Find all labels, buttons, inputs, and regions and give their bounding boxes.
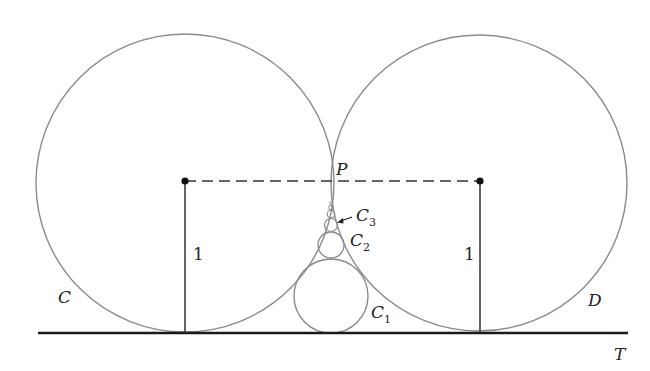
- label-c1-sub: 1: [384, 313, 391, 326]
- tangent-circles-diagram: P C D T 1 1 C 3 C 2 C 1: [0, 0, 650, 371]
- center-dot-left: [181, 177, 188, 184]
- label-c3: C: [356, 205, 369, 225]
- label-radius-left: 1: [193, 244, 204, 264]
- label-c: C: [58, 287, 71, 307]
- circle-c3: [325, 219, 338, 232]
- label-t: T: [614, 344, 627, 364]
- circle-c2: [318, 232, 344, 258]
- c3-arrow-head: [337, 218, 344, 224]
- label-c2: C: [350, 230, 363, 250]
- label-c2-sub: 2: [363, 241, 370, 254]
- label-c1: C: [371, 302, 384, 322]
- label-radius-right: 1: [464, 244, 475, 264]
- circle-c1: [294, 259, 368, 333]
- label-d: D: [587, 290, 602, 310]
- center-dot-right: [476, 177, 483, 184]
- label-p: P: [335, 159, 348, 179]
- label-c3-sub: 3: [369, 216, 376, 229]
- circle-c6: [330, 202, 333, 205]
